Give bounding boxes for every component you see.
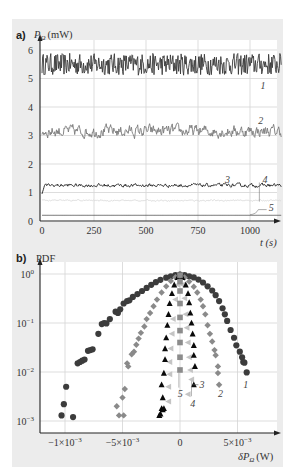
curve-label-5: 5 [269,202,274,213]
panel-b-y-axis-title: PDF [36,253,55,264]
series-annotation-3: 3 [199,379,205,390]
panel-a-x-axis-title: t (s) [260,237,277,249]
panel-b-plot-area [40,262,277,433]
series-annotation-2: 2 [218,388,223,399]
data-point [177,301,183,307]
panel-b-label: b) [16,252,27,264]
data-point [219,305,225,311]
data-point [157,277,163,283]
data-point [233,342,239,348]
x-tick-exponent: −3 [74,436,82,444]
data-point [117,306,123,312]
panel-b-pdf: −1×10−3−5×10−305×10−310010−110−210−3 123… [16,252,281,464]
x-tick-base: −1×10 [48,437,74,448]
y-tick-label: 0 [28,216,33,227]
curve-label-1: 1 [260,80,265,91]
data-point [107,316,113,322]
data-point [177,288,183,294]
data-point [177,328,183,334]
x-axis-subscript: Ω [249,456,254,464]
data-point [231,335,237,341]
data-point [177,272,183,278]
y-tick-exponent: −3 [27,415,35,423]
y-tick-label: 1 [28,187,33,198]
y-tick-base: 10 [17,416,27,427]
data-point [216,298,222,304]
data-point [224,318,230,324]
x-axis-symbol: δP [238,451,250,462]
data-point [237,349,243,355]
x-tick-label: 500 [139,225,154,236]
data-point [177,315,183,321]
curve-label-2: 2 [258,115,263,126]
data-point [177,354,183,360]
x-axis-unit: (W) [256,451,273,463]
data-point [222,311,228,317]
x-tick-label: 0 [40,225,45,236]
data-point [177,340,183,346]
y-tick-exponent: −1 [27,317,35,325]
data-point [228,327,234,333]
curve-label-4: 4 [262,174,267,185]
y-axis-subscript: Ω [40,34,45,42]
data-point [90,346,96,352]
data-point [61,401,67,407]
data-point [213,292,219,298]
series-annotation-1: 1 [243,379,248,390]
x-tick-label: 750 [191,225,206,236]
y-axis-unit: (mW) [47,29,73,41]
x-tick-label: 250 [87,225,102,236]
x-tick-exponent: −3 [132,436,140,444]
x-tick-label: 0 [178,437,183,448]
x-tick-exponent: −3 [244,436,252,444]
panel-a-time-series: 025050075010000123456 12345 a) PΩ(mW) t … [16,29,281,249]
y-tick-label: 5 [28,73,33,84]
data-point [81,356,87,362]
curve-label-3: 3 [224,174,230,185]
panel-a-label: a) [16,29,26,41]
y-tick-label: 3 [28,130,33,141]
y-tick-base: 10 [17,367,27,378]
data-point [244,369,250,375]
data-point [95,331,101,337]
x-tick-base: 0 [178,437,183,448]
y-tick-label: 2 [28,159,33,170]
data-point [177,367,183,373]
y-tick-label: 6 [28,45,33,56]
series-annotation-5: 5 [178,388,183,399]
y-tick-exponent: −2 [27,366,35,374]
x-tick-base: −5×10 [106,437,132,448]
y-tick-base: 10 [17,318,27,329]
x-tick-base: 5×10 [223,437,244,448]
data-point [241,360,247,366]
data-point [70,414,76,420]
x-tick-label: 1000 [240,225,260,236]
data-point [63,384,69,390]
data-point [177,279,183,285]
data-point [205,283,211,289]
series-annotation-4: 4 [190,398,195,409]
figure: 025050075010000123456 12345 a) PΩ(mW) t … [0,0,297,469]
y-tick-base: 10 [21,269,31,280]
y-tick-exponent: 0 [31,268,35,276]
data-point [58,412,64,418]
y-tick-label: 4 [28,102,33,113]
